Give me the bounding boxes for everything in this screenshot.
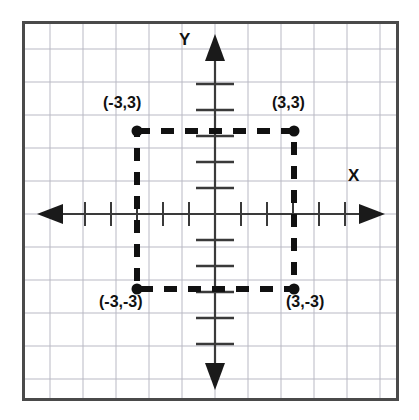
square-outline (137, 131, 294, 289)
vertex-markers (132, 126, 300, 295)
vertex-marker-top-right (289, 126, 300, 137)
dashed-square-shape (25, 24, 396, 398)
y-axis-label: Y (179, 31, 190, 48)
x-axis-label: X (348, 167, 359, 184)
point-label-bottom-right: (3,-3) (286, 294, 324, 310)
point-label-bottom-left: (-3,-3) (99, 294, 143, 310)
point-label-top-left: (-3,3) (103, 95, 141, 111)
point-label-top-right: (3,3) (272, 95, 305, 111)
coordinate-plane-figure: Y X (-3,3) (3,3) (-3,-3) (3,-3) (0, 0, 419, 420)
vertex-marker-top-left (132, 126, 143, 137)
plot-frame (22, 21, 399, 401)
